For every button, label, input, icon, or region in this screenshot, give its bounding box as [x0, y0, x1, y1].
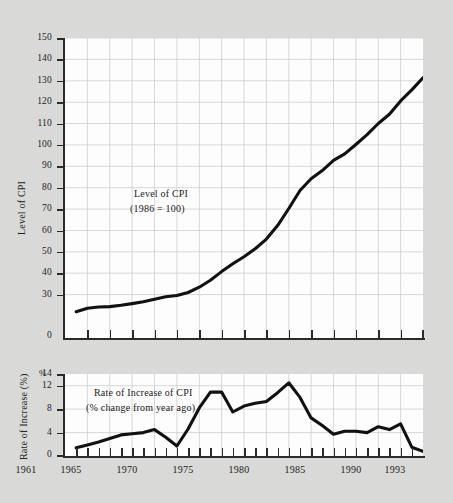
top-y-axis-title: Level of CPI — [16, 181, 27, 235]
xtick-label: 1980 — [209, 464, 269, 475]
top-ytick-label: 100 — [14, 140, 52, 149]
bottom-panel: % 14 12 8 4 0 — [0, 360, 453, 503]
top-annotation-line2: (1986 = 100) — [130, 203, 185, 214]
top-ytick-label: 110 — [14, 119, 52, 128]
top-ytick-label: 120 — [14, 97, 52, 106]
bottom-y-axis-line — [63, 374, 65, 456]
top-panel: 150 140 130 120 110 100 90 80 70 60 50 4… — [0, 0, 453, 360]
xtick-label: 1970 — [97, 464, 157, 475]
top-ytick-label: 50 — [14, 247, 52, 256]
bottom-y-axis-title: Rate of Increase (%) — [18, 374, 29, 460]
xtick-label: 1985 — [265, 464, 325, 475]
top-plot-svg — [65, 38, 423, 338]
xtick-label: 1993 — [365, 464, 425, 475]
top-y-axis-line — [63, 38, 65, 338]
cpi-figure: 150 140 130 120 110 100 90 80 70 60 50 4… — [0, 0, 453, 503]
top-ytick-label-zero: 0 — [14, 331, 52, 340]
top-ytick-label: 140 — [14, 54, 52, 63]
xtick-label: 1975 — [153, 464, 213, 475]
top-ytick-label: 30 — [14, 290, 52, 299]
top-ytick-label: 150 — [14, 33, 52, 42]
cpi-level-line — [76, 78, 423, 312]
top-ytick-label: 40 — [14, 268, 52, 277]
bottom-annotation-line1: Rate of Increase of CPI — [94, 387, 192, 398]
xtick-label: 1965 — [41, 464, 101, 475]
bottom-annotation-line2: (% change from year ago) — [86, 402, 195, 413]
top-ytick-label: 130 — [14, 76, 52, 85]
top-ytick-label: 90 — [14, 161, 52, 170]
top-annotation-line1: Level of CPI — [134, 188, 188, 199]
